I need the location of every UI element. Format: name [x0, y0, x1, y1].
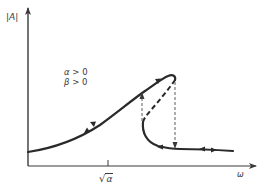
y-axis-label: |A|: [6, 13, 18, 22]
arrow-tail-right-icon: [211, 148, 217, 153]
condition-beta: β > 0: [64, 78, 87, 87]
condition-alpha: α > 0: [64, 68, 88, 77]
upper-stable-branch: [28, 75, 175, 152]
arrow-tail-left-icon: [199, 147, 205, 152]
arrow-up-right-icon: [90, 122, 96, 128]
unstable-middle-branch: [143, 80, 175, 122]
alpha-relation: > 0: [70, 67, 88, 77]
radicand: α: [105, 173, 113, 184]
axes: [28, 8, 256, 166]
x-axis-label: ω: [237, 171, 244, 179]
beta-relation: > 0: [69, 77, 87, 87]
lower-stable-branch: [143, 122, 233, 151]
sqrt-alpha-label: √α: [99, 174, 113, 184]
duffing-response-diagram: |A| ω α > 0 β > 0 √α: [0, 0, 265, 190]
